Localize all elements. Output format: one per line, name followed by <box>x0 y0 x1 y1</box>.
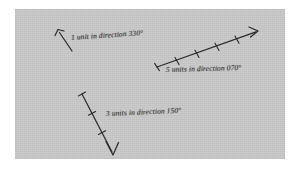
arrow-head <box>249 27 258 37</box>
vector-1-unit-330 <box>55 30 72 52</box>
vector-label-5-units-070: 5 units in direction 070° <box>166 64 242 73</box>
vector-shaft <box>157 32 256 67</box>
vector-3-units-150 <box>78 92 118 155</box>
figure-page: 1 unit in direction 330° 5 units in dire… <box>0 0 300 171</box>
vector-diagram <box>0 0 300 171</box>
